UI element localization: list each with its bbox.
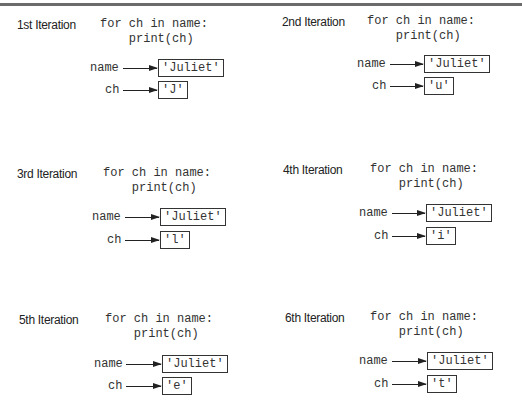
code-line-1: for ch in name: bbox=[100, 17, 208, 32]
name-arrow-icon bbox=[126, 364, 161, 365]
var-name-label: name bbox=[94, 357, 123, 371]
name-arrow-icon bbox=[123, 68, 157, 69]
name-value-box: 'Juliet' bbox=[424, 55, 490, 73]
code-line-2: print(ch) bbox=[370, 325, 464, 340]
code-line-1: for ch in name: bbox=[105, 312, 213, 327]
var-ch-label: ch bbox=[108, 379, 122, 393]
name-arrow-icon bbox=[392, 213, 425, 214]
iteration-label: 6th Iteration bbox=[285, 311, 344, 325]
var-name-label: name bbox=[92, 210, 121, 224]
iteration-label: 2nd Iteration bbox=[282, 15, 345, 29]
code-line-1: for ch in name: bbox=[103, 166, 211, 181]
var-ch-label: ch bbox=[374, 229, 388, 243]
name-arrow-icon bbox=[125, 217, 159, 218]
name-arrow-icon bbox=[392, 361, 426, 362]
name-value-box: 'Juliet' bbox=[162, 355, 228, 373]
iteration-label: 4th Iteration bbox=[283, 163, 342, 177]
var-name-label: name bbox=[357, 57, 386, 71]
ch-value-box: 't' bbox=[427, 375, 457, 393]
code-line-2: print(ch) bbox=[370, 177, 464, 192]
var-ch-label: ch bbox=[107, 233, 121, 247]
ch-value-box: 'e' bbox=[162, 377, 192, 395]
name-value-box: 'Juliet' bbox=[426, 204, 492, 222]
iteration-label: 3rd Iteration bbox=[17, 167, 77, 181]
top-rule bbox=[0, 3, 522, 6]
ch-arrow-icon bbox=[126, 386, 161, 387]
iteration-panel-5: 5th Iteration for ch in name: print(ch) … bbox=[19, 312, 280, 410]
var-ch-label: ch bbox=[105, 83, 119, 97]
code-line-2: print(ch) bbox=[367, 29, 461, 44]
code-line-1: for ch in name: bbox=[370, 162, 478, 177]
ch-arrow-icon bbox=[123, 90, 157, 91]
iteration-panel-6: 6th Iteration for ch in name: print(ch) … bbox=[285, 310, 522, 410]
name-value-box: 'Juliet' bbox=[158, 59, 224, 77]
code-line-2: print(ch) bbox=[100, 32, 194, 47]
ch-arrow-icon bbox=[392, 236, 425, 237]
iteration-panel-2: 2nd Iteration for ch in name: print(ch) … bbox=[282, 14, 522, 149]
code-line-2: print(ch) bbox=[105, 327, 199, 342]
ch-value-box: 'l' bbox=[160, 231, 190, 249]
var-ch-label: ch bbox=[372, 79, 386, 93]
ch-value-box: 'u' bbox=[424, 77, 454, 95]
ch-arrow-icon bbox=[390, 86, 423, 87]
iteration-panel-3: 3rd Iteration for ch in name: print(ch) … bbox=[17, 166, 278, 301]
ch-arrow-icon bbox=[392, 384, 426, 385]
name-arrow-icon bbox=[390, 64, 423, 65]
iteration-label: 5th Iteration bbox=[19, 313, 78, 327]
var-name-label: name bbox=[359, 354, 388, 368]
name-value-box: 'Juliet' bbox=[427, 352, 493, 370]
iteration-label: 1st Iteration bbox=[17, 18, 76, 32]
iteration-panel-1: 1st Iteration for ch in name: print(ch) … bbox=[17, 17, 278, 152]
var-ch-label: ch bbox=[374, 377, 388, 391]
iteration-panel-4: 4th Iteration for ch in name: print(ch) … bbox=[283, 162, 522, 297]
code-line-2: print(ch) bbox=[103, 181, 197, 196]
code-line-1: for ch in name: bbox=[370, 310, 478, 325]
var-name-label: name bbox=[359, 206, 388, 220]
ch-arrow-icon bbox=[125, 240, 159, 241]
ch-value-box: 'i' bbox=[426, 227, 456, 245]
name-value-box: 'Juliet' bbox=[160, 208, 226, 226]
var-name-label: name bbox=[90, 61, 119, 75]
code-line-1: for ch in name: bbox=[367, 14, 475, 29]
ch-value-box: 'J' bbox=[158, 81, 188, 99]
